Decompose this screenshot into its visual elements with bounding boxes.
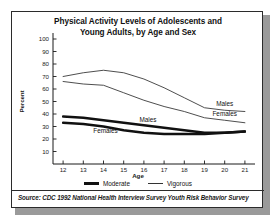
y-tick-label: 50: [42, 98, 49, 105]
legend-label-moderate: Moderate: [103, 180, 130, 187]
chart-card: Physical Activity Levels of Adolescents …: [11, 11, 263, 208]
legend-item-vigorous: Vigorous: [148, 180, 192, 187]
y-tick-label: 90: [42, 48, 49, 55]
series-label-moderate-males: Males: [139, 116, 156, 123]
line-chart-svg: 1020304050607080901001213141516171819202…: [12, 12, 264, 177]
legend-label-vigorous: Vigorous: [167, 180, 192, 187]
y-tick-label: 70: [42, 73, 49, 80]
source-note: Source: CDC 1992 National Health Intervi…: [18, 194, 262, 201]
y-tick-label: 100: [39, 35, 50, 42]
legend-item-moderate: Moderate: [84, 180, 130, 187]
y-tick-label: 10: [42, 148, 49, 155]
y-axis-label: Percent: [18, 82, 25, 122]
y-tick-label: 30: [42, 123, 49, 130]
figure-root: Physical Activity Levels of Adolescents …: [0, 0, 280, 222]
y-tick-label: 20: [42, 135, 49, 142]
x-axis-label: Age: [12, 172, 264, 179]
y-tick-label: 60: [42, 85, 49, 92]
y-tick-label: 80: [42, 60, 49, 67]
series-label-moderate-females: Females: [93, 127, 118, 134]
source-divider: [12, 190, 264, 191]
chart-legend: Moderate Vigorous: [12, 180, 264, 187]
legend-swatch-vigorous-line-icon: [148, 183, 163, 184]
series-line-moderate-females: [63, 123, 245, 134]
series-label-vigorous-males: Males: [216, 100, 233, 107]
series-label-vigorous-females: Females: [212, 110, 237, 117]
legend-swatch-moderate-line-icon: [84, 182, 99, 185]
y-tick-label: 40: [42, 110, 49, 117]
